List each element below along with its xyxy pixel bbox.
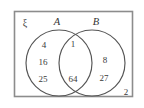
element-outside-sets: 2	[124, 87, 129, 97]
element-a-only: 16	[39, 57, 49, 67]
element-a-only: 25	[39, 74, 49, 84]
set-b-label: B	[93, 16, 100, 27]
element-intersection: 64	[69, 74, 79, 84]
venn-diagram-figure: ξ A B 4 16 25 1 64 8 27 2	[0, 0, 144, 108]
set-a-label: A	[53, 16, 61, 27]
element-a-only: 4	[42, 40, 47, 50]
universal-set-label: ξ	[23, 17, 28, 29]
element-intersection: 1	[71, 39, 76, 49]
element-b-only: 8	[103, 55, 108, 65]
element-b-only: 27	[100, 73, 110, 83]
